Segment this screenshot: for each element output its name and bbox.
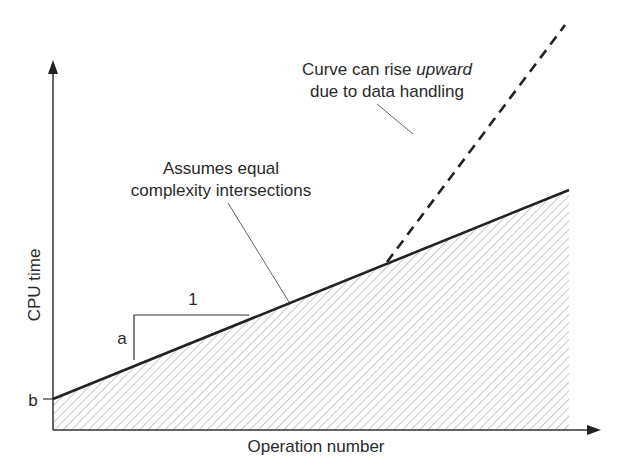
solid-annotation-text-line1: Assumes equal (163, 159, 279, 178)
slope-rise-label: a (117, 329, 127, 348)
y-axis-arrow-icon (48, 60, 58, 74)
x-axis-arrow-icon (587, 425, 601, 435)
y-intercept-label: b (28, 391, 37, 410)
solid-annotation-text-line2: complexity intersections (131, 181, 311, 200)
cpu-time-diagram: Curve can rise upward due to data handli… (0, 0, 622, 474)
hatched-region (53, 190, 569, 430)
slope-run-label: 1 (188, 290, 197, 309)
dashed-annotation-text: Curve can rise upward (302, 60, 473, 79)
y-axis-label: CPU time (25, 249, 44, 322)
dashed-annotation-leader (377, 104, 413, 134)
x-axis-label: Operation number (247, 437, 384, 456)
solid-annotation-leader (228, 203, 289, 302)
dashed-annotation-text-line2: due to data handling (310, 82, 464, 101)
